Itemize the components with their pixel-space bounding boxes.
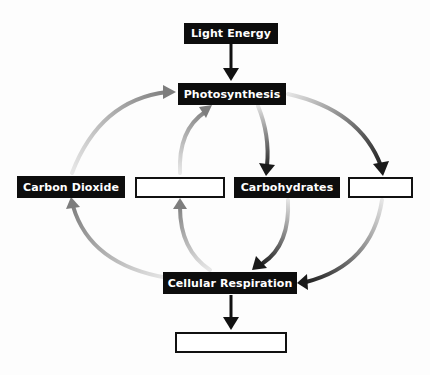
node-blank-left[interactable] [135,177,225,198]
arrow-light-to-photosynthesis [223,44,239,81]
arrow-blank-left-to-photosynthesis [180,105,212,173]
node-blank-right[interactable] [348,177,413,198]
node-carbon-dioxide: Carbon Dioxide [17,176,125,198]
arrow-blank-right-to-respiration [297,200,382,290]
node-light-energy: Light Energy [184,23,278,44]
arrow-respiration-to-carbon-dioxide [66,197,168,278]
node-cellular-respiration: Cellular Respiration [163,272,297,294]
node-carbohydrates: Carbohydrates [234,177,340,198]
cycle-diagram: Light Energy Photosynthesis Carbon Dioxi… [0,0,430,375]
arrow-carbohydrates-to-respiration [252,200,288,270]
node-photosynthesis: Photosynthesis [178,83,286,105]
arrow-photosynthesis-to-blank-right [288,94,389,176]
arrow-respiration-to-blank-left [173,198,210,270]
arrow-carbon-dioxide-to-photosynthesis [72,85,176,173]
arrow-photosynthesis-to-carbohydrates [258,106,275,176]
arrow-respiration-to-blank-bottom [223,295,239,330]
node-blank-bottom[interactable] [175,332,287,353]
